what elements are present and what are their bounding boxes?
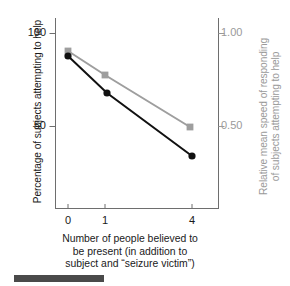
data-point-relative-speed-1 — [102, 72, 109, 79]
series-line-percentage-helping — [68, 56, 192, 156]
x-axis-title-line-1: Number of people believed to — [28, 233, 232, 246]
x-axis-title: Number of people believed to be present … — [28, 233, 232, 271]
footer-rule-bar — [14, 275, 104, 282]
data-point-relative-speed-4 — [187, 124, 194, 131]
series-line-relative-speed — [68, 51, 190, 127]
data-point-percentage-helping-1 — [103, 89, 110, 96]
x-axis-title-line-3: subject and “seizure victim”) — [28, 258, 232, 271]
data-point-percentage-helping-0 — [64, 52, 71, 59]
data-point-percentage-helping-4 — [188, 152, 195, 159]
figure-panel: Percentage of subjects attempting to hel… — [0, 0, 290, 286]
x-axis-title-line-2: be present (in addition to — [28, 246, 232, 259]
